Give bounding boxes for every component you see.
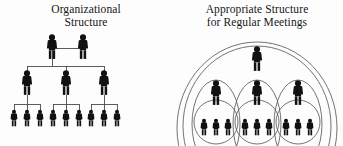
person-staff-1-2 — [213, 119, 220, 135]
person-manager-1 — [211, 80, 221, 105]
person-staff-1-3 — [225, 119, 232, 135]
person-manager-2 — [61, 70, 71, 95]
person-top-leader-2 — [78, 34, 88, 59]
person-staff-3-1 — [283, 119, 290, 135]
person-manager-3 — [293, 80, 303, 105]
panel-organizational-structure: Organizational Structure — [0, 0, 172, 146]
meeting-figures — [201, 46, 314, 135]
person-staff-1-1 — [11, 110, 18, 126]
figure-root: Organizational Structure — [0, 0, 343, 146]
person-manager-1 — [22, 70, 32, 95]
person-staff-3-1 — [88, 110, 95, 126]
person-staff-1-3 — [37, 110, 44, 126]
person-staff-3-3 — [307, 119, 314, 135]
person-staff-1-1 — [201, 119, 208, 135]
person-staff-1-2 — [24, 110, 31, 126]
person-staff-2-2 — [254, 119, 261, 135]
diagram-appropriate-structure — [171, 0, 343, 146]
person-staff-2-1 — [242, 119, 249, 135]
panel-appropriate-structure: Appropriate Structure for Regular Meetin… — [171, 0, 343, 146]
diagram-organizational-structure — [0, 0, 172, 146]
person-staff-2-3 — [266, 119, 273, 135]
person-staff-2-2 — [63, 110, 70, 126]
person-staff-3-2 — [295, 119, 302, 135]
person-staff-3-3 — [114, 110, 121, 126]
person-manager-3 — [99, 70, 109, 95]
person-manager-2 — [252, 80, 262, 105]
person-staff-2-1 — [50, 110, 57, 126]
person-staff-3-2 — [101, 110, 108, 126]
person-staff-2-3 — [76, 110, 83, 126]
person-top-leader — [252, 46, 262, 71]
